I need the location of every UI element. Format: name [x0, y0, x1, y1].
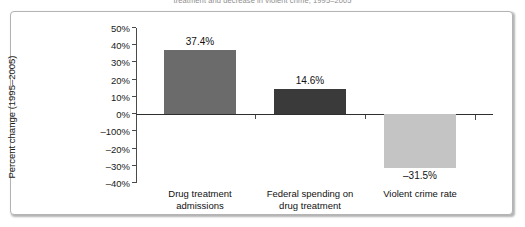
- x-tick-mark: [255, 115, 256, 119]
- figure-caption: treatment and decrease in violent crime,…: [0, 0, 525, 5]
- x-category-label: Violent crime rate: [358, 188, 482, 200]
- y-tick-mark: [132, 44, 136, 45]
- plot-area: 50%40%30%20%10%0%–100%–20%–30%–40% 37.4%…: [136, 28, 493, 183]
- bar: [384, 114, 456, 168]
- x-tick-mark: [475, 115, 476, 120]
- y-tick-label: 20%: [80, 76, 130, 86]
- y-tick-mark: [132, 113, 136, 114]
- y-tick-label: –20%: [80, 145, 130, 155]
- y-tick-mark: [132, 61, 136, 62]
- y-tick-mark: [132, 27, 136, 28]
- y-tick-label: –40%: [80, 179, 130, 189]
- bar-value-label: 14.6%: [255, 76, 365, 86]
- bar-value-label: 37.4%: [145, 37, 255, 47]
- y-tick-mark: [132, 165, 136, 166]
- x-category-label-line: admissions: [138, 200, 262, 212]
- figure-container: treatment and decrease in violent crime,…: [0, 0, 525, 227]
- x-tick-mark: [365, 115, 366, 119]
- y-tick-label: 50%: [80, 24, 130, 34]
- y-tick-label: 40%: [80, 41, 130, 51]
- bar: [274, 89, 346, 114]
- y-tick-label: –100%: [80, 127, 130, 137]
- bar-value-label: –31.5%: [365, 171, 475, 181]
- y-tick-mark: [132, 96, 136, 97]
- y-tick-label: 30%: [80, 58, 130, 68]
- y-tick-label: 0%: [80, 110, 130, 120]
- x-category-label-line: Federal spending on: [248, 188, 372, 200]
- y-axis-title: Percent change (1995–2005): [6, 42, 20, 192]
- x-category-label-line: Drug treatment: [138, 188, 262, 200]
- y-tick-mark: [132, 148, 136, 149]
- x-category-label: Federal spending ondrug treatment: [248, 188, 372, 211]
- y-tick-mark: [132, 130, 136, 131]
- y-tick-label: 10%: [80, 93, 130, 103]
- y-tick-mark: [132, 182, 136, 183]
- bar: [164, 50, 236, 114]
- y-tick-mark: [132, 79, 136, 80]
- x-category-label-line: Violent crime rate: [358, 188, 482, 200]
- y-tick-label: –30%: [80, 162, 130, 172]
- x-category-label-line: drug treatment: [248, 200, 372, 212]
- chart-frame: Percent change (1995–2005) 50%40%30%20%1…: [10, 11, 513, 215]
- x-category-label: Drug treatmentadmissions: [138, 188, 262, 211]
- y-axis-line: [136, 28, 137, 183]
